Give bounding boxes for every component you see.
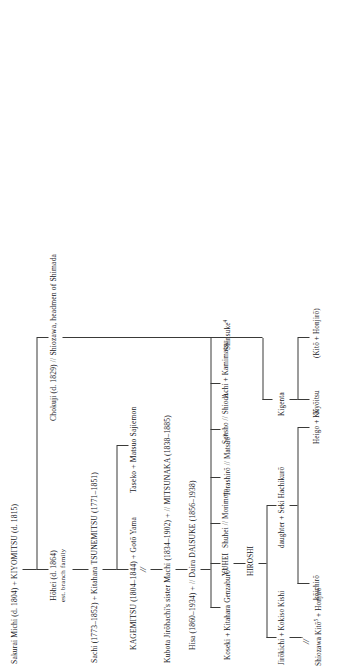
node-kiyomitsu: Sakurai Michi (d. 1804) + KIYOMITSU (d. …	[10, 504, 19, 664]
connector-gen4-drop	[150, 569, 162, 570]
node-kito-honjiro: (Kitō + Honjirō)	[312, 308, 320, 358]
node-sachi: Sachi (1773–1852) + Kitahara TSUNEMITSU …	[90, 472, 99, 663]
node-taseko: Taseko + Matsuo Sajiemon	[129, 407, 138, 494]
connector-gen4-kagemitsu	[116, 569, 128, 570]
connector-gen1-spine	[36, 338, 37, 570]
node-hohei-label: Hōhei (d. 1864)	[48, 550, 57, 601]
connector-gen10-heigo	[297, 427, 309, 428]
node-koseki: Koseki + Kitahara Genzaburō2	[221, 567, 232, 660]
connector-gen10-left-spine	[301, 637, 302, 638]
connector-gen7-sensho	[210, 429, 220, 430]
node-shiozawa-kito-note: 5	[312, 619, 318, 622]
connector-daughter-drop	[289, 505, 297, 506]
connector-gen10-koichiro	[297, 583, 309, 584]
node-hohei-subtitle: est. branch family	[58, 549, 66, 602]
node-daughter-seki: daughter + Seki Hachikurō	[277, 467, 285, 548]
connector-gen7-shuhei	[210, 523, 220, 524]
connector-gen2-chokuji	[36, 337, 48, 338]
connector-gen9-daughter	[266, 505, 276, 506]
chart-canvas: Sakurai Michi (d. 1804) + KIYOMITSU (d. …	[0, 0, 357, 668]
node-sensho: Sensho // Shioda	[221, 393, 229, 444]
node-kagemitsu: KAGEMITSU (1804–1844) + Gotō Yama	[129, 517, 138, 650]
node-kyoitsu: Kyōitsu	[312, 390, 320, 414]
connector-gen7-koseki	[210, 607, 220, 608]
node-hohei: Hōhei (d. 1864) est. branch family	[49, 549, 66, 602]
connector-gen1-drop	[22, 569, 36, 570]
connector-chokuji-long-drop	[62, 337, 262, 338]
connector-gen5-drop	[175, 569, 187, 570]
connector-gen10-kito	[297, 337, 309, 338]
connector-kigenta-drop2	[289, 399, 297, 400]
node-mitsunaka: Kubota Jirōhachi's sister Machi (1834–19…	[163, 415, 172, 663]
node-torashiro-label: Torashirō // Matsuo	[223, 437, 231, 496]
connector-gen10-right-spine	[297, 338, 298, 400]
connector-gen6-drop	[200, 569, 210, 570]
connector-gen9-spine	[266, 506, 267, 638]
connector-hiroshi-drop	[258, 563, 266, 564]
node-kigenta: Kigenta	[277, 392, 285, 416]
connector-kigenta-drop	[262, 399, 272, 400]
connector-jirokichi-drop	[289, 637, 301, 638]
node-yuhei: YUHEI	[221, 553, 229, 576]
node-shiozawa-kito-label: Shiozawa Kitō	[314, 622, 322, 666]
adoption-mark-kagemitsu: //	[137, 568, 147, 572]
adoption-mark-shiozawa: //	[300, 640, 310, 644]
connector-gen7-spine	[210, 338, 211, 608]
connector-kigenta-spine	[262, 338, 263, 400]
connector-gen7-torashiro	[210, 477, 220, 478]
genealogy-sheet: Sakurai Michi (d. 1804) + KIYOMITSU (d. …	[0, 0, 357, 668]
connector-hohei-drop	[72, 569, 88, 570]
node-hisa: Hisa (1860–1934) + // Daira DAISUKE (185…	[188, 480, 197, 650]
connector-gen7-achi	[210, 383, 220, 384]
connector-gen2-hohei	[36, 569, 48, 570]
connector-gen9-jirokichi	[266, 637, 276, 638]
node-hiroshi: HIROSHI	[246, 546, 254, 576]
node-koseki-label: Koseki + Kitahara Genzaburō	[223, 570, 231, 660]
node-jirokichi: Jirōkichi + Kokiso Kishi	[277, 591, 285, 665]
connector-gen4-taseko	[116, 445, 128, 446]
connector-gen10-mid-spine	[297, 428, 298, 584]
node-koichiro: kōichirō	[312, 575, 320, 600]
connector-gen7-yuhei	[210, 563, 220, 564]
node-chokuji: Chokuji (d. 1829) // Shiozawa, headmen o…	[49, 254, 58, 421]
connector-gen10-kyoitsu	[297, 399, 309, 400]
node-shuhei: Shuhei // Morimoto	[221, 489, 229, 548]
connector-gen3-drop	[102, 569, 116, 570]
connector-yuhei-drop	[233, 563, 245, 564]
connector-gen3-spine	[116, 446, 117, 570]
node-shinsuke: Shinsuke4	[221, 320, 232, 350]
node-shinsuke-note: 4	[221, 320, 227, 323]
